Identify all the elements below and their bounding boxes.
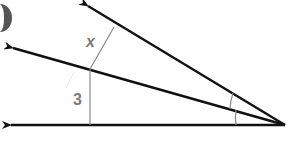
label-3: 3 xyxy=(73,91,82,108)
angle-arc-upper xyxy=(230,93,233,109)
angle-bisector-diagram: x 3 xyxy=(0,0,289,143)
angle-arc-lower xyxy=(235,110,236,125)
faint-guide-line xyxy=(66,72,74,88)
bisector-ray xyxy=(13,48,285,125)
top-ray xyxy=(88,6,285,125)
problem-number-badge xyxy=(0,4,12,32)
label-x: x xyxy=(85,33,96,50)
